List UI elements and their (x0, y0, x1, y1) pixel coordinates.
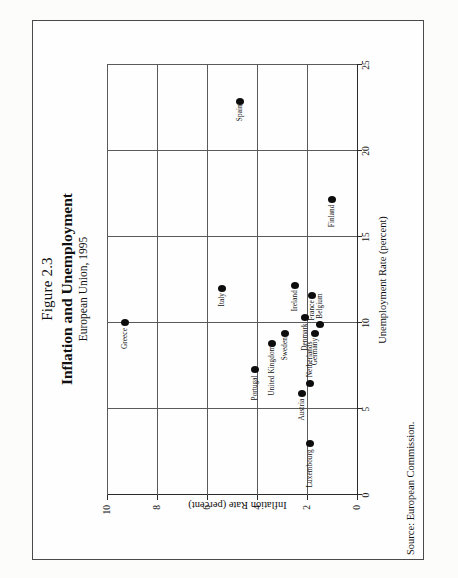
gridline-horizontal (357, 65, 358, 495)
data-point-label: Greece (121, 328, 129, 349)
gridline-horizontal (257, 65, 258, 495)
figure-subtitle: European Union, 1995 (77, 19, 91, 559)
data-point[interactable] (121, 320, 129, 327)
data-point-label: Italy (218, 293, 226, 307)
scatter-plot-area: 05101520250246810GreeceItalySpainPortuga… (107, 65, 357, 495)
y-axis-tick (107, 495, 108, 500)
data-point[interactable] (251, 366, 259, 373)
y-axis-title: Inflation Rate (percent) (138, 500, 338, 511)
data-point-label: United Kingdom (268, 346, 276, 396)
figure-title-block: Figure 2.3 Inflation and Unemployment Eu… (39, 19, 91, 559)
data-point-label: Finland (328, 205, 336, 228)
figure-number: Figure 2.3 (39, 19, 57, 559)
data-point-label: Netherlands (306, 341, 314, 377)
data-point[interactable] (311, 330, 319, 337)
x-axis-title: Unemployment Rate (percent) (377, 65, 388, 495)
data-point-label: Spain (236, 104, 244, 121)
data-point-label: Sweden (281, 337, 289, 360)
x-axis-tick-label: 25 (361, 60, 371, 70)
data-point[interactable] (281, 330, 289, 337)
scanned-page: Figure 2.3 Inflation and Unemployment Eu… (0, 0, 458, 578)
gridline-horizontal (307, 65, 308, 495)
x-axis-tick-label: 10 (361, 318, 371, 328)
gridline-vertical (107, 494, 357, 495)
data-point[interactable] (306, 440, 314, 447)
rotated-figure-container: Figure 2.3 Inflation and Unemployment Eu… (33, 19, 425, 559)
plot-frame-edge (107, 64, 357, 65)
data-point[interactable] (306, 380, 314, 387)
data-point[interactable] (291, 282, 299, 289)
data-point[interactable] (328, 196, 336, 203)
data-point-label: Ireland (291, 290, 299, 311)
x-axis-tick-label: 0 (361, 493, 371, 498)
gridline-horizontal (157, 65, 158, 495)
data-point-label: Luxembourg (306, 449, 314, 487)
data-point-label: Belgium (316, 293, 324, 318)
x-axis-tick-label: 20 (361, 146, 371, 156)
data-point[interactable] (316, 321, 324, 328)
gridline-vertical (107, 236, 357, 237)
figure-source: Source: European Commission. (405, 422, 416, 555)
x-axis-tick-label: 5 (361, 407, 371, 412)
data-point[interactable] (218, 285, 226, 292)
gridline-vertical (107, 408, 357, 409)
gridline-vertical (107, 150, 357, 151)
plot-frame-edge (107, 65, 108, 495)
data-point[interactable] (298, 390, 306, 397)
data-point-label: Austria (298, 399, 306, 421)
x-axis-tick-label: 15 (361, 232, 371, 242)
y-axis-tick-label: 0 (352, 505, 362, 510)
figure-title: Inflation and Unemployment (58, 19, 76, 559)
gridline-horizontal (207, 65, 208, 495)
y-axis-tick (357, 495, 358, 500)
data-point-label: Portugal (251, 375, 259, 400)
y-axis-tick-label: 10 (102, 505, 112, 515)
